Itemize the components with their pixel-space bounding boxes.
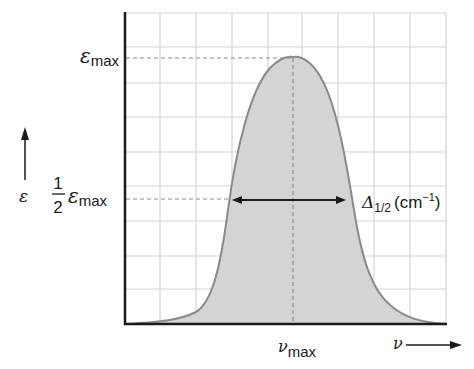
eps-symbol: ε (80, 44, 91, 68)
y-axis-arrow (21, 127, 29, 180)
nu-max-label: νmax (278, 337, 317, 360)
unit-label: (cm (394, 193, 422, 212)
eps-max-subscript: max (91, 52, 120, 69)
nu-symbol: ν (278, 337, 288, 356)
fraction-numerator: 1 (53, 174, 62, 193)
eps-symbol: ε (68, 184, 79, 208)
eps-max-subscript: max (79, 192, 108, 209)
y-axis-label: ε (19, 186, 28, 206)
x-axis-label: ν (393, 334, 403, 353)
nu-max-subscript: max (288, 343, 317, 360)
band-diagram: ε εmax 1 2 εmax Δ1/2(cm−1) νmax ν (0, 0, 474, 369)
absorption-band-figure: ε εmax 1 2 εmax Δ1/2(cm−1) νmax ν (0, 0, 474, 369)
absorption-band-curve (128, 57, 446, 324)
delta-symbol: Δ (361, 192, 374, 212)
eps-max-label: εmax (80, 44, 120, 69)
delta-subscript: 1/2 (374, 201, 391, 215)
fraction-denominator: 2 (53, 198, 62, 217)
x-axis-arrow (406, 341, 462, 349)
svg-text:εmax: εmax (68, 184, 108, 209)
unit-exponent: −1 (422, 191, 435, 203)
half-eps-max-label: 1 2 εmax (52, 174, 108, 217)
unit-close: ) (435, 193, 441, 212)
half-width-label: Δ1/2(cm−1) (361, 191, 441, 215)
